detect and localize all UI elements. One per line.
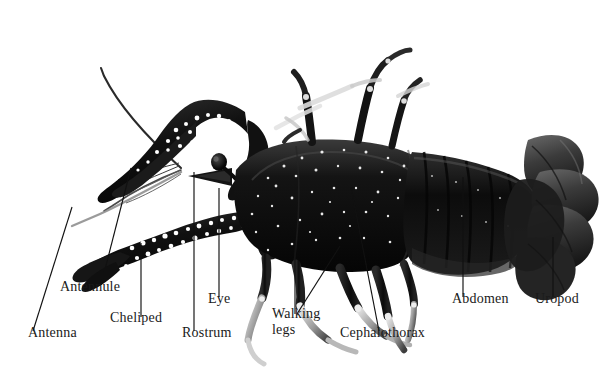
label-cephalothorax: Cephalothorax (340, 325, 425, 340)
label-uropod: Uropod (535, 291, 579, 306)
label-abdomen: Abdomen (452, 291, 509, 306)
label-rostrum: Rostrum (182, 325, 232, 340)
label-antenna: Antenna (28, 325, 77, 340)
label-cheliped: Cheliped (110, 310, 162, 325)
crayfish-anatomy-figure: Antenna Antennule Cheliped Rostrum Eye W… (0, 0, 609, 374)
label-antennule: Antennule (60, 279, 120, 294)
label-walking-legs: Walking legs (272, 306, 321, 338)
label-eye: Eye (208, 291, 230, 306)
